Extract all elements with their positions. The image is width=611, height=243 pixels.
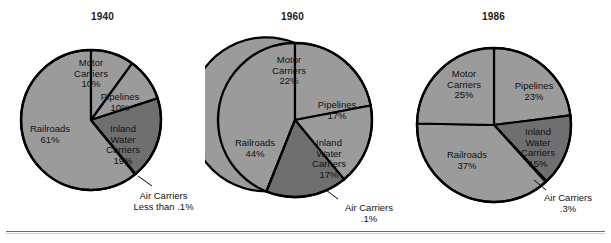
label-air-value: .3% — [527, 204, 609, 215]
label-air-value: Less than .1% — [122, 202, 205, 213]
label-air-value: .1% — [328, 214, 410, 225]
label-air-name: Air Carriers — [122, 191, 205, 202]
label-air-carriers-1986: Air Carriers .3% — [527, 193, 609, 214]
label-air-carriers-1960: Air Carriers .1% — [328, 203, 410, 224]
bottom-divider-rule-shadow — [6, 233, 605, 234]
chart-1960: 1960 Motor Carriers 22% Pipe — [205, 0, 410, 243]
chart-1986: 1986 Motor Carriers 25% Pipe — [406, 0, 611, 243]
label-air-carriers-1940: Air Carriers Less than .1% — [122, 191, 205, 212]
slice-pipelines-1986[interactable] — [494, 48, 570, 125]
leader-line-air-1960 — [326, 190, 338, 199]
label-air-name: Air Carriers — [328, 203, 410, 214]
pie-chart-figure: 1940 Motor Carriers 10% — [0, 0, 611, 243]
leader-line-air-1940 — [138, 176, 152, 186]
chart-1940: 1940 Motor Carriers 10% — [0, 0, 205, 243]
bottom-divider-rule — [6, 231, 605, 232]
label-air-name: Air Carriers — [527, 193, 609, 204]
